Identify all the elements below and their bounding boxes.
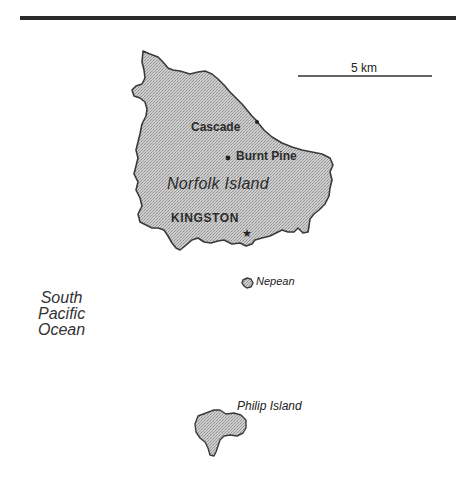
philip-island-landmass xyxy=(195,410,246,456)
burnt-pine-label: Burnt Pine xyxy=(236,150,297,162)
kingston-label: KINGSTON xyxy=(171,212,239,224)
ocean-label-line1: South xyxy=(38,290,85,306)
scale-bar-label: 5 km xyxy=(351,62,377,74)
norfolk-island-label: Norfolk Island xyxy=(167,176,269,192)
ocean-label: South Pacific Ocean xyxy=(38,290,85,338)
ocean-label-line3: Ocean xyxy=(38,322,85,338)
ocean-label-line2: Pacific xyxy=(38,306,85,322)
nepean-label: Nepean xyxy=(256,276,295,287)
cascade-label: Cascade xyxy=(191,121,240,133)
nepean-island-landmass xyxy=(242,278,253,288)
burnt-pine-dot-icon xyxy=(226,156,231,161)
kingston-star-icon: ★ xyxy=(242,227,252,240)
map-canvas: ★ xyxy=(0,0,468,495)
philip-island-label: Philip Island xyxy=(237,400,302,412)
cascade-dot-icon xyxy=(255,120,259,124)
